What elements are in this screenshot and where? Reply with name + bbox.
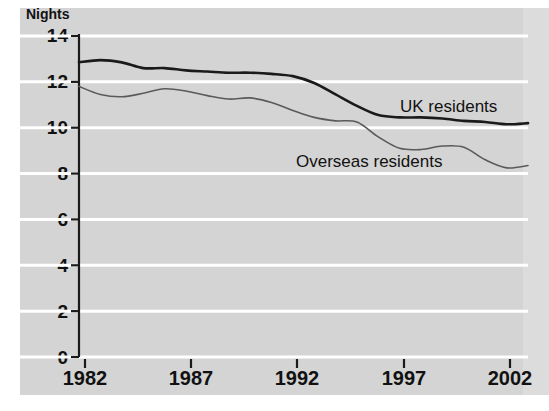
line-chart: Nights 14 12 10 8 6 4 2 0 1982 1987 1992… bbox=[0, 0, 549, 411]
plot-area bbox=[0, 0, 549, 411]
data-series bbox=[79, 60, 528, 168]
gridlines bbox=[20, 36, 528, 357]
axis-ticks bbox=[71, 36, 510, 368]
